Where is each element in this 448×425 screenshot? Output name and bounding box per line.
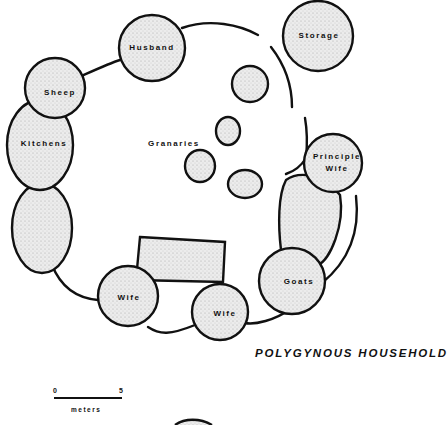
partial-structure-bottom — [175, 420, 212, 425]
granary-2 — [216, 117, 240, 145]
granary-1 — [232, 66, 268, 102]
husband-label: Husband — [129, 43, 174, 52]
storage-label: Storage — [299, 31, 340, 40]
granaries-label: Granaries — [148, 139, 200, 148]
scale-max: 5 — [119, 387, 123, 394]
diagram-title: POLYGYNOUS HOUSEHOLD — [255, 347, 448, 359]
compound-wall-lower-left — [52, 265, 98, 300]
wife-right-label: Wife — [213, 309, 236, 318]
principle-wife-label-1: Principle — [313, 152, 361, 161]
goats-label: Goats — [284, 277, 315, 286]
scale-unit: meters — [71, 406, 101, 413]
scale-min: 0 — [53, 387, 57, 394]
wife-left-label: Wife — [117, 293, 140, 302]
kitchen-lower — [12, 183, 72, 273]
compound-wall-top — [182, 23, 258, 35]
principle-wife-label-2: Wife — [325, 164, 348, 173]
granary-4 — [228, 170, 262, 198]
kitchens-label: Kitchens — [21, 139, 68, 148]
compound-wall-bottom — [148, 325, 195, 333]
granary-3 — [185, 150, 215, 182]
sheep-label: Sheep — [44, 88, 76, 97]
